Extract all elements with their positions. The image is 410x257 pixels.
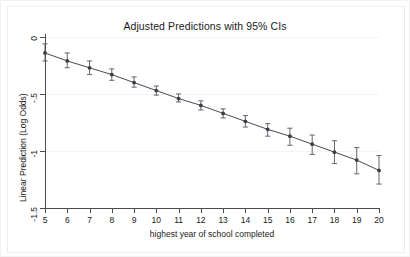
data-point-marker xyxy=(288,134,292,138)
data-point-marker xyxy=(88,66,92,70)
x-axis-title: highest year of school completed xyxy=(45,229,379,239)
data-point-marker xyxy=(43,51,47,55)
data-point-marker xyxy=(65,59,69,63)
y-axis-title: Linear Prediction (Log Odds) xyxy=(18,93,28,202)
data-point-marker xyxy=(132,81,136,85)
data-point-marker xyxy=(355,158,359,162)
data-point-marker xyxy=(221,111,225,115)
data-point-marker xyxy=(110,73,114,77)
data-point-marker xyxy=(199,104,203,108)
figure-outer-frame: Adjusted Predictions with 95% CIs 0-.5-1… xyxy=(0,0,410,257)
data-point-marker xyxy=(333,150,337,154)
data-point-marker xyxy=(154,89,158,93)
data-point-marker xyxy=(377,168,381,172)
series-plot xyxy=(1,1,410,257)
prediction-line xyxy=(45,53,379,170)
data-point-marker xyxy=(310,142,314,146)
data-point-marker xyxy=(266,127,270,131)
data-point-marker xyxy=(177,97,181,101)
data-point-marker xyxy=(244,119,248,123)
